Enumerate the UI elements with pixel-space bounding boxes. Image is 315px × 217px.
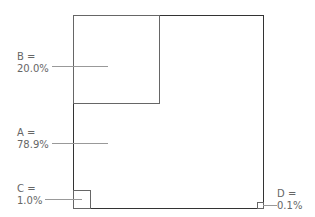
label-a-value: 78.9% [17,139,49,151]
leader-line-a [52,143,108,144]
label-d-value: 0.1% [277,200,302,212]
label-c-name: C = [17,183,42,195]
label-b-name: B = [17,51,49,63]
label-c-value: 1.0% [17,195,42,207]
label-b-value: 20.0% [17,63,49,75]
label-d-name: D = [277,188,302,200]
label-a-name: A = [17,127,49,139]
leader-line-c [45,199,82,200]
leader-line-d [263,205,277,206]
square-b [73,15,160,104]
label-c: C = 1.0% [17,183,42,207]
label-b: B = 20.0% [17,51,49,75]
label-a: A = 78.9% [17,127,49,151]
leader-line-b [52,66,108,67]
label-d: D = 0.1% [277,188,302,212]
